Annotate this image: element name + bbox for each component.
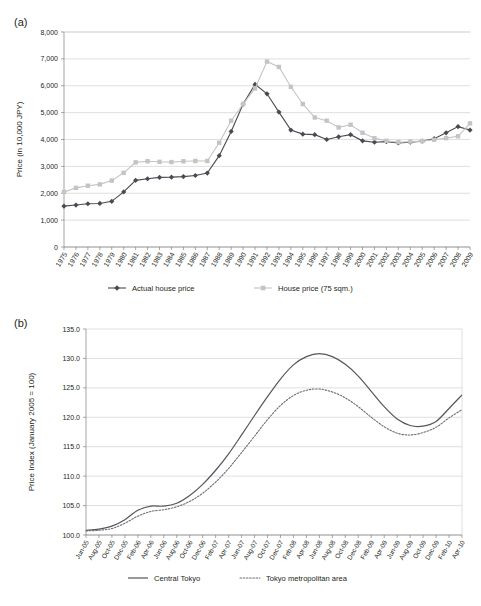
data-point-marker: [169, 160, 173, 164]
data-point-marker: [73, 202, 78, 207]
data-point-marker: [444, 130, 449, 135]
data-point-marker: [384, 139, 388, 143]
data-point-marker: [325, 118, 329, 122]
data-point-marker: [241, 102, 245, 106]
data-point-marker: [205, 159, 209, 163]
data-point-marker: [86, 184, 90, 188]
data-point-marker: [193, 173, 198, 178]
series-line-tokyo-metropolitan-area: [86, 389, 462, 531]
data-point-marker: [313, 115, 317, 119]
data-point-marker: [456, 134, 460, 138]
data-point-marker: [467, 127, 472, 132]
ytick-label: 7,000: [40, 55, 58, 62]
data-point-marker: [145, 176, 150, 181]
data-point-marker: [74, 186, 78, 190]
ytick-label: 105.0: [62, 502, 80, 509]
data-point-marker: [324, 137, 329, 142]
data-point-marker: [145, 159, 149, 163]
data-point-marker: [229, 129, 234, 134]
data-point-marker: [336, 134, 341, 139]
data-point-marker: [420, 139, 424, 143]
data-point-marker: [372, 136, 376, 140]
data-point-marker: [61, 204, 66, 209]
data-point-marker: [157, 160, 161, 164]
ytick-label: 100.0: [62, 532, 80, 539]
data-point-marker: [289, 85, 293, 89]
ytick-label: 115.0: [63, 443, 80, 450]
data-point-marker: [181, 159, 185, 163]
data-point-marker: [372, 140, 377, 145]
xtick-label: Apr-10: [450, 539, 467, 560]
data-point-marker: [455, 124, 460, 129]
y-axis-title: Price Index (January 2005 = 100): [27, 372, 36, 491]
data-point-marker: [360, 131, 364, 135]
legend-label-house-price-75sqm: House price (75 sqm.): [278, 284, 353, 293]
data-point-marker: [336, 125, 340, 129]
data-point-marker: [300, 132, 305, 137]
data-point-marker: [62, 190, 66, 194]
legend-marker-house-price-75sqm: [261, 286, 266, 291]
data-point-marker: [97, 201, 102, 206]
data-point-marker: [133, 160, 137, 164]
ytick-label: 0: [54, 244, 58, 251]
legend-label-actual-house-price: Actual house price: [132, 284, 194, 293]
series-line-actual-house-price: [64, 84, 470, 206]
data-point-marker: [348, 123, 352, 127]
data-point-marker: [444, 136, 448, 140]
data-point-marker: [122, 171, 126, 175]
figure-b: (b) 100.0105.0110.0115.0120.0125.0130.01…: [0, 303, 481, 606]
data-point-marker: [85, 201, 90, 206]
ytick-label: 3,000: [40, 163, 58, 170]
figure-a: (a) 01,0002,0003,0004,0005,0006,0007,000…: [0, 0, 481, 303]
data-point-marker: [110, 178, 114, 182]
data-point-marker: [217, 141, 221, 145]
ytick-label: 2,000: [40, 190, 58, 197]
data-point-marker: [253, 86, 257, 90]
ytick-label: 135.0: [62, 326, 80, 333]
y-axis-title: Price (in 10,000 JPY): [15, 101, 24, 177]
data-point-marker: [432, 138, 436, 142]
data-point-marker: [181, 174, 186, 179]
chart-b-canvas: 100.0105.0110.0115.0120.0125.0130.0135.0…: [0, 303, 481, 606]
data-point-marker: [169, 175, 174, 180]
legend-label-tokyo-metropolitan-area: Tokyo metropolitan area: [266, 574, 348, 583]
ytick-label: 130.0: [62, 355, 80, 362]
data-point-marker: [265, 59, 269, 63]
ytick-label: 125.0: [62, 384, 80, 391]
ytick-label: 110.0: [63, 473, 80, 480]
data-point-marker: [468, 121, 472, 125]
data-point-marker: [312, 132, 317, 137]
chart-a-canvas: 01,0002,0003,0004,0005,0006,0007,0008,00…: [0, 0, 481, 303]
legend-label-central-tokyo: Central Tokyo: [154, 574, 200, 583]
ytick-label: 1,000: [40, 217, 58, 224]
data-point-marker: [408, 139, 412, 143]
data-point-marker: [348, 132, 353, 137]
data-point-marker: [98, 182, 102, 186]
ytick-label: 6,000: [40, 82, 58, 89]
ytick-label: 8,000: [40, 29, 58, 36]
ytick-label: 5,000: [40, 109, 58, 116]
xtick-label: 2009: [460, 251, 474, 268]
ytick-label: 120.0: [62, 414, 80, 421]
panel-label-a: (a): [14, 16, 27, 28]
data-point-marker: [277, 65, 281, 69]
series-line-central-tokyo: [86, 354, 462, 531]
panel-label-b: (b): [14, 317, 27, 329]
ytick-label: 4,000: [40, 136, 58, 143]
legend-marker-actual-house-price: [114, 285, 120, 291]
data-point-marker: [396, 140, 400, 144]
data-point-marker: [301, 102, 305, 106]
data-point-marker: [157, 175, 162, 180]
data-point-marker: [193, 159, 197, 163]
data-point-marker: [360, 138, 365, 143]
data-point-marker: [229, 118, 233, 122]
